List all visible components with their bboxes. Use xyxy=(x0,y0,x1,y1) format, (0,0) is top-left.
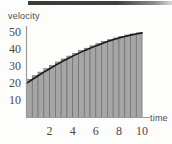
riemann-rectangle xyxy=(50,65,56,117)
x-tick-label: 10 xyxy=(134,125,150,137)
riemann-rectangle xyxy=(131,34,137,118)
y-tick-label: 30 xyxy=(3,60,21,72)
riemann-rectangle xyxy=(79,51,85,118)
riemann-rectangle xyxy=(113,38,119,117)
riemann-rectangle xyxy=(61,59,67,117)
riemann-rectangle xyxy=(107,40,113,118)
riemann-rectangle xyxy=(84,48,90,117)
riemann-rectangle xyxy=(90,46,96,118)
riemann-rectangle xyxy=(73,53,79,117)
y-tick-label: 40 xyxy=(3,43,21,55)
riemann-rectangle xyxy=(67,56,73,117)
x-axis-title: time xyxy=(150,113,168,123)
riemann-rectangle xyxy=(102,42,108,118)
riemann-rectangle xyxy=(38,72,44,117)
x-tick-label: 2 xyxy=(42,125,58,137)
y-tick-label: 50 xyxy=(3,26,21,38)
y-tick-label: 20 xyxy=(3,77,21,89)
x-tick-label: 4 xyxy=(65,125,81,137)
riemann-rectangle xyxy=(27,79,33,117)
riemann-rectangle xyxy=(55,62,61,117)
y-tick-label: 10 xyxy=(3,94,21,106)
x-tick-label: 8 xyxy=(111,125,127,137)
riemann-rectangle xyxy=(32,76,38,118)
plot-canvas xyxy=(0,0,172,144)
riemann-rectangle xyxy=(96,44,102,118)
riemann-rectangles xyxy=(27,33,143,118)
velocity-time-figure: velocity time 1020304050 246810 xyxy=(0,0,172,144)
x-tick-label: 6 xyxy=(88,125,104,137)
y-axis-title: velocity xyxy=(8,11,40,21)
riemann-rectangle xyxy=(136,33,142,118)
riemann-rectangle xyxy=(125,35,131,117)
riemann-rectangle xyxy=(44,69,50,118)
riemann-rectangle xyxy=(119,37,125,118)
